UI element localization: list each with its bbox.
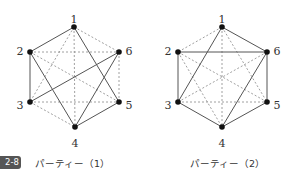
node-label-3: 3 — [17, 99, 24, 112]
solid-edge-1-2 — [30, 27, 74, 52]
solid-edge-3-4 — [178, 102, 222, 127]
party-graph-1: 123456 — [17, 13, 133, 150]
solid-edge-1-3 — [178, 27, 222, 102]
node-label-6: 6 — [126, 45, 133, 58]
node-4 — [219, 124, 225, 130]
solid-edge-4-5 — [75, 102, 119, 127]
party-graphs-diagram: 123456123456 — [0, 0, 298, 181]
dashed-edge-2-5 — [178, 52, 267, 102]
node-4 — [72, 124, 78, 130]
node-label-1: 1 — [219, 13, 226, 26]
figure-number-badge: 2-8 — [0, 156, 21, 169]
dashed-edge-1-6 — [74, 27, 119, 52]
dashed-edge-3-6 — [178, 52, 267, 102]
node-2 — [175, 49, 181, 55]
node-label-5: 5 — [126, 99, 133, 112]
node-5 — [116, 99, 122, 105]
node-label-2: 2 — [165, 45, 172, 58]
node-6 — [264, 49, 270, 55]
node-label-4: 4 — [219, 137, 226, 150]
node-5 — [264, 99, 270, 105]
solid-edge-1-6 — [222, 27, 267, 52]
solid-edge-4-6 — [75, 52, 119, 127]
node-label-4: 4 — [72, 137, 79, 150]
dashed-edge-3-4 — [30, 102, 75, 127]
node-2 — [27, 49, 33, 55]
node-3 — [175, 99, 181, 105]
node-label-1: 1 — [71, 13, 78, 26]
node-label-6: 6 — [274, 45, 281, 58]
node-3 — [27, 99, 33, 105]
dashed-edge-1-2 — [178, 27, 222, 52]
node-6 — [116, 49, 122, 55]
solid-edge-4-5 — [222, 102, 267, 127]
caption-party-1: パーティー（1） — [35, 156, 110, 170]
node-label-3: 3 — [165, 99, 172, 112]
party-graph-2: 123456 — [165, 13, 281, 150]
node-label-2: 2 — [17, 45, 24, 58]
caption-party-2: パーティー（2） — [190, 156, 265, 170]
solid-edge-4-6 — [222, 52, 267, 127]
node-label-5: 5 — [274, 99, 281, 112]
